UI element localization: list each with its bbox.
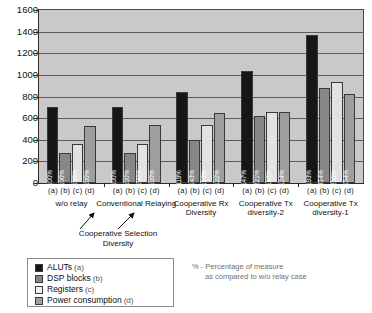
bar-a-group-1: 100% bbox=[47, 107, 59, 183]
bar-value-label: 143% bbox=[188, 170, 195, 186]
bar-value-label: 193% bbox=[305, 170, 312, 186]
bar-value-label: 100% bbox=[148, 170, 155, 186]
bar-b-group-1: 100% bbox=[59, 153, 71, 183]
legend-item-power: Power consumption (d) bbox=[35, 295, 173, 306]
bar-value-label: 100% bbox=[135, 170, 142, 186]
bar-value-label: 124% bbox=[278, 170, 285, 186]
bar-a-group-4: 147% bbox=[241, 71, 253, 183]
x-axis-group-separator bbox=[104, 183, 105, 187]
bar-d-group-2: 100% bbox=[149, 125, 161, 183]
bar-group: 100%100%100%100% bbox=[104, 10, 169, 183]
legend-key-c: (c) bbox=[85, 284, 94, 295]
y-tick-label-400: 400 bbox=[4, 135, 38, 145]
legend-key-d: (d) bbox=[124, 295, 134, 306]
legend-swatch-icon-b bbox=[35, 275, 43, 283]
bar-value-label: 255% bbox=[330, 170, 337, 186]
footnote-line-2: as compared to w/o relay case bbox=[192, 272, 368, 282]
bar-groups: 100%100%100%100%100%100%100%100%119%143%… bbox=[39, 10, 363, 183]
legend-label-a: ALUTs bbox=[47, 262, 72, 273]
y-tick-label-1000: 1000 bbox=[4, 70, 38, 80]
bar-b-group-3: 143% bbox=[189, 140, 201, 183]
footnote: % - Percentage of measure as compared to… bbox=[192, 262, 368, 282]
bar-value-label: 100% bbox=[123, 170, 130, 186]
y-tick-label-1600: 1600 bbox=[4, 5, 38, 15]
legend-swatch-icon-c bbox=[35, 286, 43, 294]
legend-item-alufs: ALUTs (a) bbox=[35, 262, 173, 273]
legend-key-a: (a) bbox=[74, 262, 84, 273]
legend-key-b: (b) bbox=[93, 273, 103, 284]
y-tick-label-1400: 1400 bbox=[4, 27, 38, 37]
y-tick-label-1200: 1200 bbox=[4, 48, 38, 58]
bar-value-label: 147% bbox=[240, 170, 247, 186]
annotation-line-1: Cooperative Selection bbox=[79, 229, 157, 238]
bar-d-group-3: 122% bbox=[214, 113, 226, 183]
bar-c-group-4: 183% bbox=[266, 112, 278, 183]
bar-value-label: 154% bbox=[342, 170, 349, 186]
legend-item-registers: Registers (c) bbox=[35, 284, 173, 295]
bar-c-group-2: 100% bbox=[137, 144, 149, 183]
bar-d-group-4: 124% bbox=[279, 112, 291, 183]
annotation-line-2: Diversity bbox=[103, 239, 134, 248]
bar-c-group-5: 255% bbox=[331, 82, 343, 183]
legend: ALUTs (a) DSP blocks (b) Registers (c) P… bbox=[27, 258, 174, 307]
bar-value-label: 100% bbox=[58, 170, 65, 186]
x-axis-group-label: (a) (b) (c) (d)Cooperative Tx diversity-… bbox=[288, 186, 372, 218]
bar-c-group-1: 100% bbox=[72, 144, 84, 183]
bar-value-label: 100% bbox=[83, 170, 90, 186]
bar-value-label: 119% bbox=[175, 170, 182, 185]
bar-value-label: 100% bbox=[110, 170, 117, 186]
legend-label-d: Power consumption bbox=[47, 295, 122, 306]
x-axis-sub-labels: (a) (b) (c) (d) bbox=[288, 186, 372, 196]
bar-value-label: 221% bbox=[253, 170, 260, 186]
bar-c-group-3: 153% bbox=[201, 125, 213, 183]
annotation-text: Cooperative Selection Diversity bbox=[38, 229, 198, 249]
bar-value-label: 100% bbox=[71, 170, 78, 186]
footnote-line-1: % - Percentage of measure bbox=[192, 262, 368, 272]
x-axis-group-separator bbox=[233, 183, 234, 187]
legend-label-b: DSP blocks bbox=[47, 273, 91, 284]
x-axis-group-separator bbox=[169, 183, 170, 187]
x-axis-category-name: Cooperative Tx diversity-1 bbox=[288, 199, 372, 218]
bar-b-group-4: 221% bbox=[254, 116, 266, 183]
y-axis: 02004006008001000120014001600 bbox=[0, 0, 38, 193]
bar-group: 193%314%255%154% bbox=[298, 10, 363, 183]
bar-d-group-5: 154% bbox=[344, 94, 356, 183]
bar-group: 147%221%183%124% bbox=[233, 10, 298, 183]
bar-group: 119%143%153%122% bbox=[169, 10, 234, 183]
bar-value-label: 100% bbox=[46, 170, 53, 186]
x-axis-group-separator bbox=[298, 183, 299, 187]
y-tick-label-600: 600 bbox=[4, 113, 38, 123]
bar-value-label: 314% bbox=[317, 170, 324, 186]
legend-swatch-icon-d bbox=[35, 297, 43, 305]
bar-a-group-5: 193% bbox=[306, 35, 318, 183]
legend-item-dsp: DSP blocks (b) bbox=[35, 273, 173, 284]
bar-d-group-1: 100% bbox=[84, 126, 96, 183]
bar-value-label: 122% bbox=[213, 170, 220, 186]
legend-swatch-icon-a bbox=[35, 264, 43, 272]
bar-b-group-2: 100% bbox=[124, 153, 136, 183]
figure-canvas: 02004006008001000120014001600 100%100%10… bbox=[0, 0, 372, 313]
bar-a-group-3: 119% bbox=[176, 92, 188, 183]
bar-a-group-2: 100% bbox=[112, 107, 124, 183]
bar-value-label: 183% bbox=[265, 170, 272, 186]
bar-value-label: 153% bbox=[200, 170, 207, 186]
bar-group: 100%100%100%100% bbox=[39, 10, 104, 183]
bar-b-group-5: 314% bbox=[319, 88, 331, 183]
y-tick-label-800: 800 bbox=[4, 92, 38, 102]
legend-label-c: Registers bbox=[47, 284, 83, 295]
y-tick-label-200: 200 bbox=[4, 156, 38, 166]
